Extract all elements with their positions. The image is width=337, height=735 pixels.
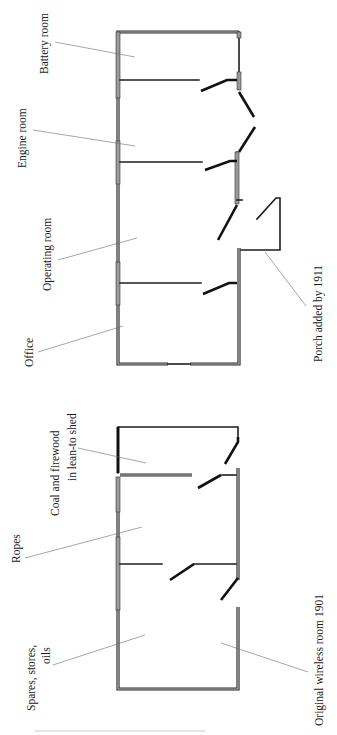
label-porch: Porch added by 1911 (312, 265, 325, 362)
label-coal-firewood-line1: Coal and firewood (49, 430, 61, 516)
lower-outer-walls (118, 427, 238, 689)
upper-doors (201, 80, 255, 294)
label-coal-firewood-line2: in lean-to shed (66, 413, 78, 481)
label-wireless-room: Original wireless room 1901 (313, 594, 326, 726)
cut-off-caption (35, 730, 205, 732)
lower-partitions (120, 475, 236, 564)
porch-outline (241, 198, 280, 250)
upper-labels: Battery room Engine room Operating room … (16, 13, 325, 367)
lower-windows (116, 477, 120, 610)
label-office: Office (23, 338, 35, 367)
label-operating-room: Operating room (41, 218, 54, 291)
label-spares-line2: oils (40, 647, 52, 664)
label-battery-room: Battery room (38, 13, 51, 74)
lower-labels: Coal and firewood in lean-to shed Ropes … (10, 413, 326, 726)
upper-plan: Battery room Engine room Operating room … (16, 13, 325, 367)
label-spares-line1: Spares, stores, (25, 645, 38, 711)
lower-doors (170, 437, 238, 600)
label-ropes: Ropes (10, 534, 23, 563)
label-engine-room: Engine room (16, 108, 29, 168)
upper-partitions (120, 80, 202, 283)
floor-plan-diagram: Battery room Engine room Operating room … (0, 0, 337, 735)
lower-plan: Coal and firewood in lean-to shed Ropes … (10, 413, 326, 726)
